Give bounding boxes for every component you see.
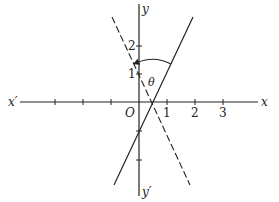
x-tick-label-3: 3 [219, 106, 227, 120]
y-tick-label-1: 1 [128, 67, 136, 81]
y-axis-label: y [141, 2, 149, 16]
angle-theta-label: θ [148, 76, 155, 89]
coordinate-diagram: x x′ y y′ O 1 2 3 1 2 θ [0, 0, 279, 202]
solid-line [114, 17, 193, 185]
x-tick-label-1: 1 [163, 106, 171, 120]
x-neg-axis-label: x′ [8, 95, 18, 109]
y-neg-axis-label: y′ [141, 185, 152, 199]
dashed-line [112, 17, 190, 185]
origin-label: O [125, 106, 135, 120]
angle-arc [136, 59, 171, 64]
x-axis-label: x [261, 95, 268, 109]
y-tick-label-2: 2 [128, 39, 136, 53]
x-tick-label-2: 2 [191, 106, 199, 120]
